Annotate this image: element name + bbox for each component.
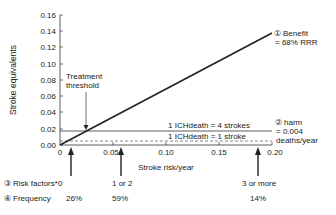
benefit-label: ①Benefit (274, 29, 309, 38)
frequency-high: 14% (250, 194, 266, 203)
svg-text:0.10: 0.10 (40, 60, 56, 69)
harm-value: = 0.004 (276, 127, 303, 136)
risk-factors-high: 3 or more (242, 179, 277, 188)
svg-text:0.05: 0.05 (103, 148, 119, 157)
x-axis-label: Stroke risk/year (138, 163, 194, 172)
benefit-value: = 68% RRR (275, 38, 318, 47)
harm-unit: deaths/year (276, 136, 318, 145)
treatment-threshold-label: Treatment (66, 72, 103, 81)
svg-text:0.14: 0.14 (40, 27, 56, 36)
svg-text:0.04: 0.04 (40, 108, 56, 117)
threshold-arrow-icon (84, 125, 89, 130)
frequency-low: 26% (66, 194, 82, 203)
svg-text:0.00: 0.00 (40, 141, 56, 150)
svg-text:0.10: 0.10 (158, 148, 174, 157)
svg-text:0.12: 0.12 (40, 43, 56, 52)
label-4-strokes: 1 ICHdeath = 4 strokes (168, 121, 250, 130)
frequency-label: ④Frequency (4, 194, 51, 203)
x-ticks: 0 0.05 0.10 0.15 0.20 (58, 142, 284, 157)
harm-label: ②harm (275, 118, 303, 127)
svg-text:0.16: 0.16 (40, 11, 56, 20)
label-1-stroke: 1 ICHdeath = 1 stroke (168, 132, 247, 141)
svg-text:0.02: 0.02 (40, 125, 56, 134)
svg-text:0.06: 0.06 (40, 92, 56, 101)
y-axis-label: Stroke equivalents (8, 45, 18, 115)
risk-factors-label: ③Risk factors*0 (4, 179, 63, 188)
treatment-threshold-label-2: threshold (66, 81, 99, 90)
svg-text:0.08: 0.08 (40, 76, 56, 85)
chart: Stroke equivalents 0.00 0.02 0.04 0.06 0… (0, 0, 336, 215)
svg-text:0.15: 0.15 (211, 148, 227, 157)
svg-text:0: 0 (58, 148, 63, 157)
svg-text:0.20: 0.20 (267, 148, 283, 157)
frequency-mid: 59% (112, 194, 128, 203)
risk-factors-mid: 1 or 2 (112, 179, 133, 188)
